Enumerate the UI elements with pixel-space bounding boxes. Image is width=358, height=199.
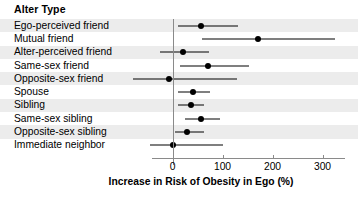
plot-row: Same-sex sibling (0, 112, 358, 125)
estimate-point (188, 102, 194, 108)
confidence-interval-bar (133, 78, 237, 79)
zero-reference-line (173, 19, 174, 165)
row-label: Ego-perceived friend (14, 20, 109, 30)
confidence-interval-bar (180, 65, 249, 66)
plot-row: Alter-perceived friend (0, 46, 358, 59)
estimate-point (198, 23, 204, 29)
x-axis-line (152, 158, 345, 159)
plot-row: Mutual friend (0, 32, 358, 45)
x-axis-tick (273, 155, 274, 159)
x-axis-tick-label: 100 (214, 161, 231, 172)
row-label: Same-sex friend (14, 60, 89, 70)
plot-row: Opposite-sex friend (0, 72, 358, 85)
column-header-alter-type: Alter Type (14, 3, 66, 15)
x-axis-tick (223, 155, 224, 159)
estimate-point (205, 63, 211, 69)
plot-row: Same-sex friend (0, 59, 358, 72)
plot-row: Sibling (0, 99, 358, 112)
row-label: Opposite-sex sibling (14, 127, 107, 137)
x-axis-label: Increase in Risk of Obesity in Ego (%) (65, 176, 294, 187)
plot-rows: Ego-perceived friendMutual friendAlter-p… (0, 19, 358, 152)
estimate-point (198, 116, 204, 122)
row-label: Spouse (14, 87, 49, 97)
estimate-point (180, 49, 186, 55)
confidence-interval-bar (202, 38, 335, 39)
forest-plot-figure: Alter Type Ego-perceived friendMutual fr… (0, 0, 358, 199)
x-axis-tick-label: 0 (170, 161, 176, 172)
x-axis-tick-label: 300 (314, 161, 331, 172)
x-axis-tick-label: 200 (264, 161, 281, 172)
estimate-point (166, 76, 172, 82)
plot-row: Immediate neighbor (0, 139, 358, 152)
estimate-point (190, 89, 196, 95)
estimate-point (255, 36, 261, 42)
row-label: Sibling (14, 100, 45, 110)
row-label: Mutual friend (14, 34, 74, 44)
confidence-interval-bar (150, 145, 223, 146)
row-label: Same-sex sibling (14, 114, 92, 124)
plot-row: Opposite-sex sibling (0, 125, 358, 138)
x-axis-tick (323, 155, 324, 159)
plot-row: Spouse (0, 85, 358, 98)
plot-row: Ego-perceived friend (0, 19, 358, 32)
row-label: Immediate neighbor (14, 140, 105, 150)
x-axis-label-container: Increase in Risk of Obesity in Ego (%) (0, 176, 358, 187)
row-label: Opposite-sex friend (14, 74, 103, 84)
x-axis-tick (173, 155, 174, 159)
estimate-point (184, 129, 190, 135)
confidence-interval-bar (178, 25, 238, 26)
row-label: Alter-perceived friend (14, 47, 112, 57)
